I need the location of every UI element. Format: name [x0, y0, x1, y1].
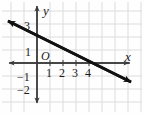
coordinate-plane-figure: 3 1 −1 −2 1 2 3 4 O y x [0, 0, 144, 114]
x-tick-label-1: 1 [46, 67, 52, 79]
y-tick-label-minus-2: −2 [17, 84, 30, 96]
y-tick-label-1: 1 [25, 46, 31, 58]
x-axis-label: x [125, 50, 131, 63]
origin-label: O [41, 50, 50, 62]
y-tick-label-3: 3 [24, 20, 30, 32]
y-axis-label: y [43, 4, 49, 17]
x-tick-label-2: 2 [59, 67, 65, 79]
x-tick-label-3: 3 [72, 67, 78, 79]
y-tick-label-minus-1: −1 [17, 71, 30, 83]
x-tick-label-4: 4 [85, 67, 91, 79]
